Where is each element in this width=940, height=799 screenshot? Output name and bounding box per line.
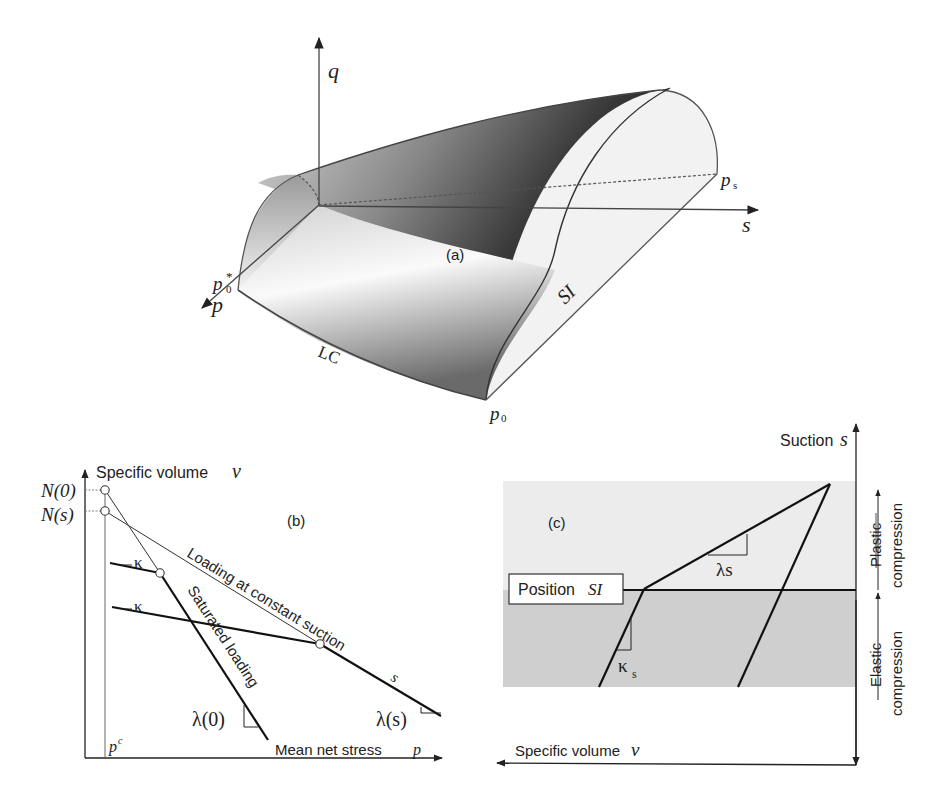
pc-sup: c [118,735,123,746]
lambda-s-label: λs [716,559,733,580]
p-axis-label: p [210,292,223,317]
p0-star-sub: 0 [226,283,232,295]
p0-label: p [488,403,500,424]
kappa-s-label: κ [618,655,628,676]
ns-label: N(s) [40,504,74,526]
v-axis-label: Specific volume [96,464,208,481]
lambdas-label: λ(s) [376,708,407,731]
s-axis-label: s [742,212,751,237]
elastic-compression-label: compression [888,631,905,716]
position-si-symbol: SI [588,580,604,599]
p0-star-sup: * [226,269,233,284]
elastic-label: Elastic [867,642,884,687]
panel-b-label: (b) [287,512,305,529]
panel-a-label: (a) [446,246,464,263]
suction-axis-symbol: s [840,428,848,450]
kappa-s-sub: s [632,667,637,681]
kappa2-label: κ [134,597,143,616]
pc-label: p [108,738,117,756]
p0-star-label: p [211,273,223,294]
p-axis-b-label: Mean net stress [275,741,382,758]
lambda0-label: λ(0) [192,708,225,731]
kappa1-intersection [156,569,164,577]
ns-point [101,507,109,515]
figure-canvas: q s p (a) LC SI p 0 * p 0 p s [0,0,940,799]
p-axis-b-symbol: p [412,741,421,759]
volume-axis-symbol: v [631,739,640,760]
panel-a-yield-surface-3d: q s p (a) LC SI p 0 * p 0 p s [202,38,758,424]
panel-c-label: (c) [548,514,566,531]
p0-sub: 0 [501,412,507,424]
n0-label: N(0) [40,480,76,502]
n0-point [101,486,109,494]
plastic-compression-label: compression [888,503,905,588]
position-si-text: Position [518,581,575,598]
constant-suction-symbol: s [388,669,401,686]
suction-axis-label: Suction [780,432,833,449]
constant-suction-line-thick [320,644,441,716]
saturated-line-thin [105,490,160,573]
panel-b-compression-curves: Specific volume v N(0) N(s) (b) κ κ Load… [40,460,442,759]
plastic-label: Plastic [867,522,884,567]
q-axis-label: q [328,58,339,83]
kappa1-label: κ [134,553,143,572]
ps-label: p [719,169,731,190]
lambda0-triangle [244,705,258,727]
panel-c-suction-volume: Position SI (c) λs κ s Suction s Specifi… [497,424,905,765]
v-axis-symbol: v [232,460,241,482]
volume-axis-label: Specific volume [515,742,620,759]
volume-axis [497,763,856,765]
ps-sub: s [733,179,737,191]
